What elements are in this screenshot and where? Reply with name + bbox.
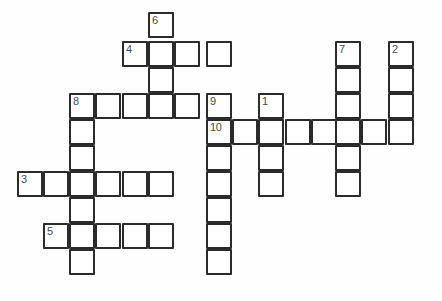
crossword-cell[interactable] (206, 197, 232, 223)
crossword-cell[interactable] (335, 145, 361, 171)
crossword-cell[interactable] (148, 41, 174, 67)
cell-number-label: 4 (126, 43, 132, 56)
cell-number-label: 6 (152, 14, 158, 27)
crossword-cell[interactable] (122, 223, 148, 249)
crossword-cell-numbered-9[interactable]: 9 (206, 93, 232, 119)
crossword-cell-numbered-7[interactable]: 7 (335, 41, 361, 67)
crossword-cell[interactable] (335, 171, 361, 197)
crossword-cell[interactable] (285, 119, 311, 145)
crossword-cell[interactable] (69, 119, 95, 145)
crossword-cell[interactable] (148, 67, 174, 93)
cell-number-label: 8 (73, 95, 79, 108)
crossword-cell[interactable] (206, 41, 232, 67)
crossword-cell[interactable] (206, 223, 232, 249)
crossword-cell[interactable] (388, 67, 414, 93)
crossword-cell[interactable] (69, 249, 95, 275)
crossword-cell-numbered-3[interactable]: 3 (17, 171, 43, 197)
crossword-cell[interactable] (361, 119, 387, 145)
crossword-cell[interactable] (122, 171, 148, 197)
cell-number-label: 3 (21, 173, 27, 186)
crossword-cell-numbered-4[interactable]: 4 (122, 41, 148, 67)
cell-number-label: 1 (262, 95, 268, 108)
crossword-cell[interactable] (206, 249, 232, 275)
crossword-cell[interactable] (335, 93, 361, 119)
crossword-cell-numbered-5[interactable]: 5 (43, 223, 69, 249)
crossword-cell-numbered-8[interactable]: 8 (69, 93, 95, 119)
cell-number-label: 2 (392, 43, 398, 56)
crossword-cell[interactable] (69, 223, 95, 249)
crossword-cell[interactable] (43, 171, 69, 197)
crossword-cell[interactable] (258, 119, 284, 145)
crossword-cell[interactable] (95, 93, 121, 119)
crossword-cell[interactable] (95, 171, 121, 197)
crossword-cell[interactable] (174, 41, 200, 67)
crossword-cell[interactable] (148, 223, 174, 249)
crossword-cell[interactable] (69, 197, 95, 223)
crossword-cell[interactable] (388, 93, 414, 119)
crossword-cell[interactable] (148, 93, 174, 119)
cell-number-label: 10 (210, 121, 222, 134)
crossword-grid[interactable]: 64728911035 (0, 0, 442, 301)
cell-number-label: 7 (339, 43, 345, 56)
crossword-cell[interactable] (206, 171, 232, 197)
crossword-cell[interactable] (311, 119, 337, 145)
crossword-cell[interactable] (232, 119, 258, 145)
crossword-cell[interactable] (148, 171, 174, 197)
crossword-cell[interactable] (95, 223, 121, 249)
crossword-cell[interactable] (69, 145, 95, 171)
cell-number-label: 5 (47, 225, 53, 238)
crossword-cell[interactable] (335, 67, 361, 93)
crossword-cell-numbered-2[interactable]: 2 (388, 41, 414, 67)
crossword-cell[interactable] (122, 93, 148, 119)
crossword-cell[interactable] (258, 145, 284, 171)
crossword-cell[interactable] (69, 171, 95, 197)
crossword-cell[interactable] (206, 145, 232, 171)
crossword-cell[interactable] (388, 119, 414, 145)
crossword-cell[interactable] (258, 171, 284, 197)
crossword-cell-numbered-6[interactable]: 6 (148, 12, 174, 38)
cell-number-label: 9 (210, 95, 216, 108)
crossword-cell-numbered-1[interactable]: 1 (258, 93, 284, 119)
crossword-cell-numbered-10[interactable]: 10 (206, 119, 232, 145)
crossword-cell[interactable] (174, 93, 200, 119)
crossword-cell[interactable] (335, 119, 361, 145)
